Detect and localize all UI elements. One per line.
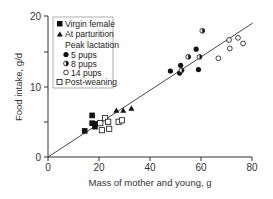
y-axis-label: Food intake, g/d: [13, 53, 24, 121]
x-tick-20: 20: [93, 162, 105, 173]
legend-postweaning: Post-weaning: [65, 77, 117, 87]
y-tick-0: 0: [35, 152, 41, 163]
data-point: [98, 121, 103, 126]
data-point: [119, 118, 124, 123]
legend-parturition: At parturition: [65, 29, 114, 39]
data-point: [200, 28, 205, 33]
data-point: [197, 54, 202, 59]
data-point: [194, 47, 199, 52]
x-tick-40: 40: [144, 162, 156, 173]
data-point: [227, 38, 232, 43]
data-point: [107, 126, 112, 131]
x-tick-0: 0: [45, 162, 51, 173]
x-axis: 0 20 40 60 80: [45, 157, 258, 173]
half-filled-circle-icon: [64, 61, 69, 66]
data-point: [179, 68, 184, 73]
x-tick-80: 80: [246, 162, 258, 173]
data-point: [113, 107, 119, 112]
open-square-icon: [57, 80, 62, 85]
data-point: [99, 128, 104, 133]
data-point: [186, 54, 191, 59]
data-point: [236, 35, 241, 40]
legend-peak-header: Peak lactation: [65, 40, 119, 50]
filled-circle-icon: [63, 52, 68, 57]
x-tick-60: 60: [195, 162, 207, 173]
legend-14-pups: 14 pups: [71, 68, 102, 78]
data-point: [196, 67, 201, 72]
data-point: [178, 63, 183, 68]
data-point: [82, 128, 88, 134]
data-point: [168, 68, 173, 73]
data-point: [89, 113, 95, 119]
y-axis: 20 10 0: [30, 11, 48, 163]
data-point: [120, 107, 126, 112]
y-tick-20: 20: [30, 11, 42, 22]
chart: 20 10 0 0 20 40 60 80 Mass of mother and…: [0, 0, 273, 199]
data-point: [227, 46, 232, 51]
legend: Virgin female At parturition Peak lactat…: [53, 17, 119, 88]
data-point: [128, 105, 134, 110]
x-axis-label: Mass of mother and young, g: [88, 177, 211, 188]
legend-virgin: Virgin female: [65, 19, 115, 29]
data-point: [216, 56, 221, 61]
open-circle-icon: [64, 70, 69, 75]
data-point: [92, 124, 98, 130]
filled-square-icon: [57, 21, 63, 27]
data-point: [106, 119, 111, 124]
data-point: [241, 41, 246, 46]
y-tick-10: 10: [30, 82, 42, 93]
